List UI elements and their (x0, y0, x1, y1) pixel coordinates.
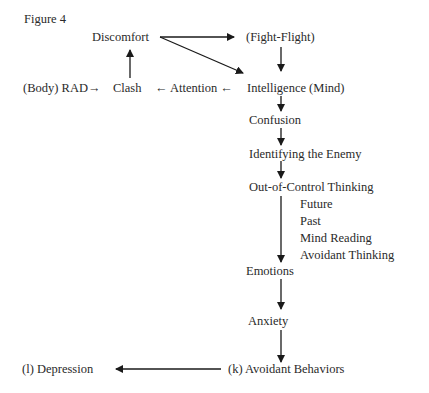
arrow-layer (0, 0, 429, 393)
arrow-discomfort-to-intelligence (160, 37, 243, 73)
